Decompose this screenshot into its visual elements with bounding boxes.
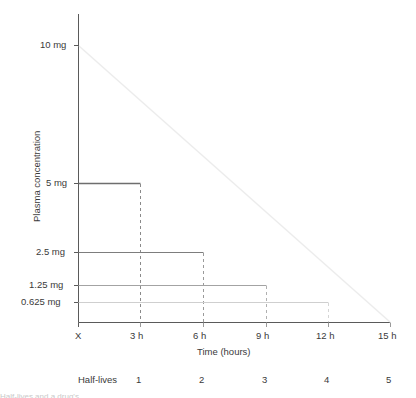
plot-canvas [0,0,416,398]
halflives-label: Half-lives [78,374,117,385]
x-tick-label-3h: 3 h [130,331,143,341]
y-tick-label-0-625mg: 0.625 mg [21,297,61,307]
x-tick-label-12h: 12 h [316,331,335,341]
halflives-tick-4: 4 [324,374,329,385]
y-tick-label-10mg: 10 mg [40,40,66,50]
y-tick-label-5mg: 5 mg [46,178,67,188]
y-tick-label-2-5mg: 2.5 mg [36,247,65,257]
halflives-tick-2: 2 [199,374,204,385]
halflives-tick-5: 5 [386,374,391,385]
clipped-caption-text: Half-lives and a drug's [0,392,79,398]
x-tick-label-origin: X [75,331,81,341]
x-tick-label-6h: 6 h [193,331,206,341]
y-axis-title: Plasma concentration [31,131,42,222]
x-tick-label-15h: 15 h [378,331,397,341]
chart-figure: 10 mg 5 mg 2.5 mg 1.25 mg 0.625 mg X 3 h… [0,0,416,398]
halflives-tick-3: 3 [262,374,267,385]
x-axis-title: Time (hours) [197,346,251,357]
y-tick-label-1-25mg: 1.25 mg [29,280,63,290]
halflives-tick-1: 1 [136,374,141,385]
x-tick-label-9h: 9 h [256,331,269,341]
